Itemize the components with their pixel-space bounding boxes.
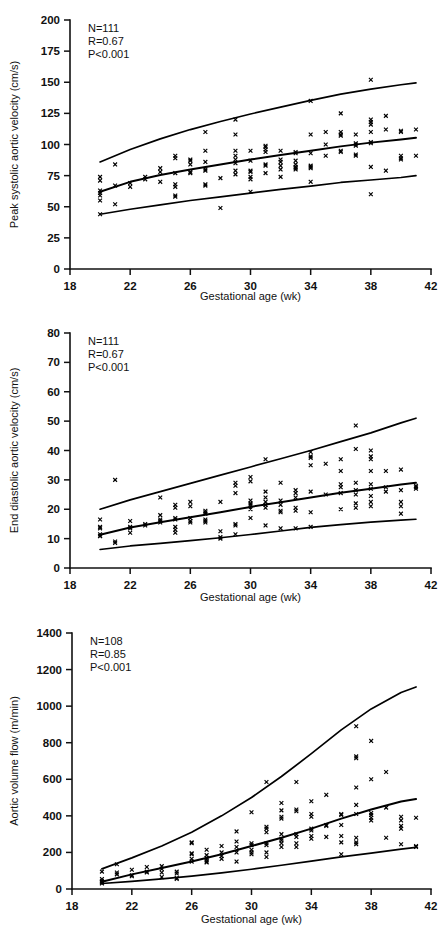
chart-canvas-1: 0102030405060708018222630343842Gestation…	[0, 311, 445, 611]
data-point-marker	[369, 449, 373, 453]
data-point-marker	[294, 845, 298, 849]
data-point-marker	[249, 177, 253, 181]
data-point-marker	[234, 158, 238, 162]
data-point-marker	[339, 823, 343, 827]
x-axis-label: Gestational age (wk)	[200, 591, 301, 603]
data-point-marker	[384, 469, 388, 473]
data-point-marker	[324, 835, 328, 839]
data-point-marker	[235, 840, 239, 844]
y-tick-label: 200	[43, 846, 62, 858]
y-tick-label: 70	[47, 356, 60, 368]
data-point-marker	[145, 865, 149, 869]
data-point-marker	[220, 844, 224, 848]
data-point-marker	[203, 130, 207, 134]
data-point-marker	[399, 500, 403, 504]
data-point-marker	[250, 810, 254, 814]
data-point-marker	[264, 496, 268, 500]
data-point-marker	[264, 150, 268, 154]
y-tick-label: 75	[47, 170, 60, 182]
x-tick-label: 18	[64, 579, 77, 591]
data-point-marker	[249, 516, 253, 520]
data-point-marker	[113, 478, 117, 482]
data-point-marker	[369, 192, 373, 196]
data-point-marker	[414, 154, 418, 158]
data-point-marker	[234, 172, 238, 176]
data-point-marker	[384, 169, 388, 173]
data-point-marker	[249, 507, 253, 511]
y-tick-label: 80	[47, 327, 60, 339]
data-point-marker	[399, 827, 403, 831]
data-point-marker	[264, 524, 268, 528]
x-axis-label: Gestational age (wk)	[201, 913, 302, 925]
data-point-marker	[280, 808, 284, 812]
data-point-marker	[354, 724, 358, 728]
y-tick-label: 0	[56, 883, 62, 895]
stat-annotation: R=0.67	[88, 348, 124, 360]
data-point-marker	[280, 832, 284, 836]
data-point-marker	[339, 457, 343, 461]
data-point-marker	[158, 170, 162, 174]
y-tick-label: 125	[41, 107, 61, 119]
data-point-marker	[173, 506, 177, 510]
data-point-marker	[309, 490, 313, 494]
y-tick-label: 1200	[36, 664, 62, 676]
data-point-marker	[309, 837, 313, 841]
data-point-marker	[234, 154, 238, 158]
data-point-marker	[280, 801, 284, 805]
series-line-upper-95-limit	[100, 83, 416, 162]
data-point-marker	[309, 510, 313, 514]
data-point-marker	[203, 160, 207, 164]
y-axis-label: Peak systolic aortic velocity (cm/s)	[8, 61, 20, 228]
x-tick-label: 34	[304, 579, 317, 591]
data-point-marker	[324, 130, 328, 134]
x-tick-label: 42	[425, 900, 438, 912]
data-point-marker	[384, 770, 388, 774]
data-point-marker	[354, 447, 358, 451]
data-point-marker	[234, 149, 238, 153]
data-point-marker	[369, 123, 373, 127]
data-point-marker	[188, 504, 192, 508]
y-tick-label: 30	[47, 474, 60, 486]
stat-annotation: R=0.67	[88, 35, 124, 47]
data-point-marker	[354, 481, 358, 485]
data-point-marker	[399, 815, 403, 819]
scatter-points	[98, 424, 418, 545]
data-point-marker	[369, 504, 373, 508]
data-point-marker	[354, 786, 358, 790]
data-point-marker	[384, 490, 388, 494]
figure-three-panel-scatter: 025507510012515017520018222630343842Gest…	[0, 0, 445, 934]
x-tick-label: 26	[184, 280, 197, 292]
stat-annotation: N=111	[88, 335, 119, 347]
data-point-marker	[234, 491, 238, 495]
data-point-marker	[294, 841, 298, 845]
data-point-marker	[294, 835, 298, 839]
data-point-marker	[205, 848, 209, 852]
x-tick-label: 38	[364, 579, 377, 591]
data-point-marker	[369, 457, 373, 461]
y-tick-label: 400	[43, 810, 62, 822]
data-point-marker	[265, 780, 269, 784]
data-point-marker	[369, 819, 373, 823]
data-point-marker	[339, 111, 343, 115]
data-point-marker	[309, 815, 313, 819]
data-point-marker	[234, 169, 238, 173]
y-tick-label: 40	[47, 445, 60, 457]
data-point-marker	[339, 840, 343, 844]
data-point-marker	[130, 868, 134, 872]
data-point-marker	[220, 857, 224, 861]
series-line-upper-95-limit	[102, 687, 416, 869]
data-point-marker	[354, 506, 358, 510]
data-point-marker	[324, 793, 328, 797]
y-tick-label: 50	[47, 201, 60, 213]
data-point-marker	[354, 501, 358, 505]
x-tick-label: 30	[245, 900, 258, 912]
data-point-marker	[100, 870, 104, 874]
data-point-marker	[280, 845, 284, 849]
y-tick-label: 150	[41, 76, 60, 88]
data-point-marker	[158, 180, 162, 184]
data-point-marker	[235, 845, 239, 849]
data-point-marker	[98, 179, 102, 183]
data-point-marker	[173, 156, 177, 160]
data-point-marker	[264, 171, 268, 175]
data-point-marker	[279, 481, 283, 485]
